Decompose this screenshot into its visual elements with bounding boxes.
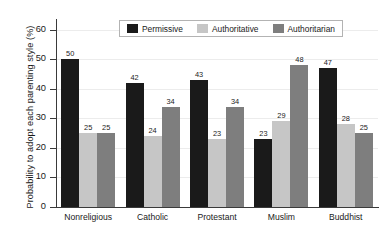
bar-value-label: 47 <box>315 58 341 67</box>
bar-catholic-authoritarian <box>162 107 180 207</box>
bar-buddhist-permissive <box>319 68 337 207</box>
y-tick-mark <box>50 207 56 208</box>
legend-entry-authoritarian: Authoritarian <box>273 24 336 34</box>
legend-swatch-permissive-icon <box>127 24 138 33</box>
bar-value-label: 50 <box>57 49 83 58</box>
bar-muslim-permissive <box>254 139 272 207</box>
bar-nonreligious-permissive <box>61 59 79 207</box>
bar-value-label: 34 <box>158 97 184 106</box>
legend-label-authoritarian: Authoritarian <box>288 24 336 34</box>
bar-catholic-authoritative <box>144 136 162 207</box>
x-category-label-protestant: Protestant <box>185 212 249 222</box>
bar-value-label: 25 <box>93 123 119 132</box>
bar-protestant-authoritarian <box>226 107 244 207</box>
legend-swatch-authoritative-icon <box>197 24 208 33</box>
bar-value-label: 34 <box>222 97 248 106</box>
bar-protestant-authoritative <box>208 139 226 207</box>
bar-nonreligious-authoritarian <box>97 133 115 207</box>
y-tick-label: 40 <box>24 83 46 93</box>
y-tick-label: 60 <box>24 24 46 34</box>
legend-swatch-authoritarian-icon <box>273 24 284 33</box>
legend-entry-permissive: Permissive <box>127 24 183 34</box>
x-category-label-buddhist: Buddhist <box>314 212 378 222</box>
bar-value-label: 25 <box>351 123 377 132</box>
y-tick-label: 0 <box>24 201 46 211</box>
bar-buddhist-authoritarian <box>355 133 373 207</box>
bar-protestant-permissive <box>190 80 208 207</box>
x-category-label-muslim: Muslim <box>249 212 313 222</box>
y-tick-label: 30 <box>24 112 46 122</box>
bar-value-label: 43 <box>186 70 212 79</box>
y-tick-label: 10 <box>24 171 46 181</box>
x-category-label-catholic: Catholic <box>120 212 184 222</box>
bar-nonreligious-authoritative <box>79 133 97 207</box>
bar-value-label: 28 <box>333 114 359 123</box>
legend-label-authoritative: Authoritative <box>212 24 259 34</box>
x-category-label-nonreligious: Nonreligious <box>56 212 120 222</box>
bar-buddhist-authoritative <box>337 124 355 207</box>
plot-area: 502525422434432334232948472825 <box>56 21 378 207</box>
legend-label-permissive: Permissive <box>142 24 183 34</box>
bar-chart: Probability to adopt each parenting styl… <box>0 0 385 248</box>
bar-value-label: 48 <box>286 55 312 64</box>
bar-muslim-authoritarian <box>290 65 308 207</box>
legend: Permissive Authoritative Authoritarian <box>119 20 343 37</box>
legend-entry-authoritative: Authoritative <box>197 24 259 34</box>
y-tick-label: 50 <box>24 53 46 63</box>
bar-muslim-authoritative <box>272 121 290 207</box>
y-tick-label: 20 <box>24 142 46 152</box>
x-axis-line <box>56 207 379 208</box>
bar-value-label: 42 <box>122 73 148 82</box>
bar-catholic-permissive <box>126 83 144 207</box>
